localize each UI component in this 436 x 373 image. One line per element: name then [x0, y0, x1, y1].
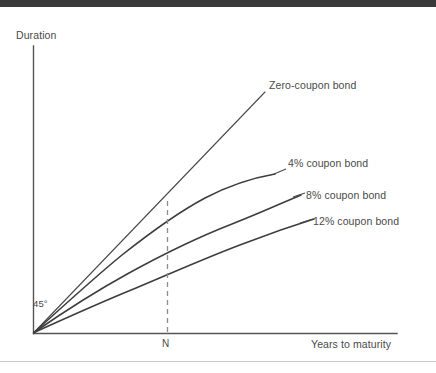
- series-label-8-percent-coupon-bond: 8% coupon bond: [306, 190, 386, 202]
- angle-annotation-45deg: 45°: [33, 299, 48, 309]
- series-label-12-percent-coupon-bond: 12% coupon bond: [313, 216, 399, 228]
- series-label-4-percent-coupon-bond: 4% coupon bond: [288, 158, 368, 170]
- leader-line-12-percent: [300, 219, 313, 223]
- leader-line-4-percent: [274, 169, 286, 174]
- scan-bottom-rule: [0, 361, 436, 362]
- x-axis-tick-label-n: N: [162, 338, 169, 349]
- series-zero-coupon-bond: [34, 92, 265, 333]
- series-label-zero-coupon-bond: Zero-coupon bond: [269, 80, 356, 92]
- y-axis-title: Duration: [16, 30, 57, 42]
- figure-root: Duration Years to maturity 45° N Zero-co…: [0, 0, 436, 373]
- duration-maturity-plot: [0, 0, 436, 373]
- x-axis-title: Years to maturity: [311, 339, 391, 351]
- series-12-percent-coupon-bond: [34, 219, 314, 333]
